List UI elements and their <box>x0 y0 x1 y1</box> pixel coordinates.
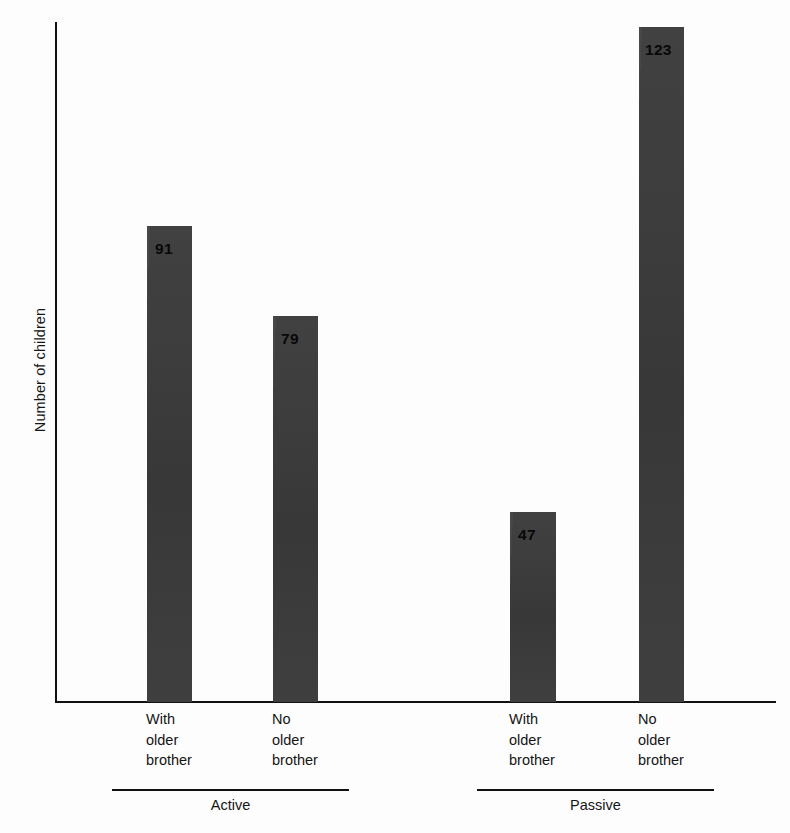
bar-value-label: 47 <box>518 526 536 544</box>
x-category-label-passive-with: Witholderbrother <box>509 709 555 771</box>
bar-passive-no-older-brother <box>639 27 684 702</box>
cat-line-1: With <box>146 711 175 727</box>
bar-value-label: 123 <box>645 41 672 59</box>
cat-line-1: No <box>272 711 291 727</box>
x-category-label-active-no: Noolderbrother <box>272 709 318 771</box>
group-rule-active <box>112 789 349 791</box>
bar-value-label: 91 <box>155 240 173 258</box>
cat-line-3: brother <box>638 752 684 768</box>
cat-line-3: brother <box>272 752 318 768</box>
bar-active-no-older-brother <box>273 316 318 702</box>
bar-active-with-older-brother <box>147 226 192 702</box>
bar-value-label: 79 <box>281 330 299 348</box>
cat-line-2: older <box>146 732 178 748</box>
y-axis-line <box>55 22 57 703</box>
bar-chart: Number of children 91 Witholderbrother 7… <box>0 0 790 833</box>
cat-line-1: No <box>638 711 657 727</box>
group-label-passive: Passive <box>477 797 714 813</box>
group-rule-passive <box>477 789 714 791</box>
y-axis-title: Number of children <box>32 270 48 470</box>
cat-line-3: brother <box>509 752 555 768</box>
x-category-label-passive-no: Noolderbrother <box>638 709 684 771</box>
cat-line-2: older <box>272 732 304 748</box>
cat-line-1: With <box>509 711 538 727</box>
x-category-label-active-with: Witholderbrother <box>146 709 192 771</box>
cat-line-2: older <box>638 732 670 748</box>
group-label-active: Active <box>112 797 349 813</box>
cat-line-3: brother <box>146 752 192 768</box>
cat-line-2: older <box>509 732 541 748</box>
